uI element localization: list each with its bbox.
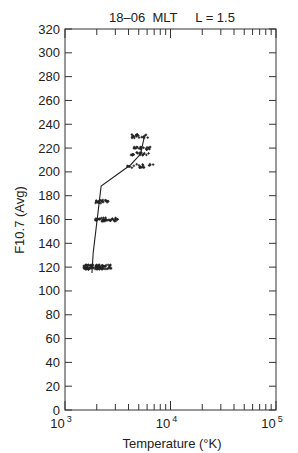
y-tick-label: 40 [46, 355, 60, 370]
y-tick-label: 60 [46, 331, 60, 346]
y-tick-label: 160 [38, 212, 60, 227]
y-tick-label: 260 [38, 93, 60, 108]
y-tick-label: 140 [38, 236, 60, 251]
y-tick-label: 180 [38, 188, 60, 203]
y-tick-label: 240 [38, 117, 60, 132]
y-axis: 0204060801001201401601802002202402602803… [38, 22, 276, 418]
x-axis-label: Temperature (°K) [122, 436, 221, 451]
y-axis-label: F10.7 (Avg) [12, 186, 27, 254]
y-tick-label: 300 [38, 45, 60, 60]
y-tick-label: 100 [38, 283, 60, 298]
y-tick-label: 200 [38, 164, 60, 179]
y-tick-label: 220 [38, 141, 60, 156]
chart-title: 18–06 MLT L = 1.5 [109, 10, 235, 25]
y-tick-label: 80 [46, 307, 60, 322]
y-tick-label: 20 [46, 379, 60, 394]
x-tick-label: 104 [156, 414, 177, 431]
y-tick-label: 280 [38, 69, 60, 84]
x-tick-label: 103 [50, 414, 71, 431]
y-tick-label: 320 [38, 22, 60, 37]
chart: 18–06 MLT L = 1.5 0204060801001201401601… [0, 0, 298, 453]
y-tick-label: 120 [38, 260, 60, 275]
x-tick-label: 105 [261, 414, 282, 431]
x-axis: 103104105 [50, 29, 282, 431]
trend-line [92, 139, 144, 274]
